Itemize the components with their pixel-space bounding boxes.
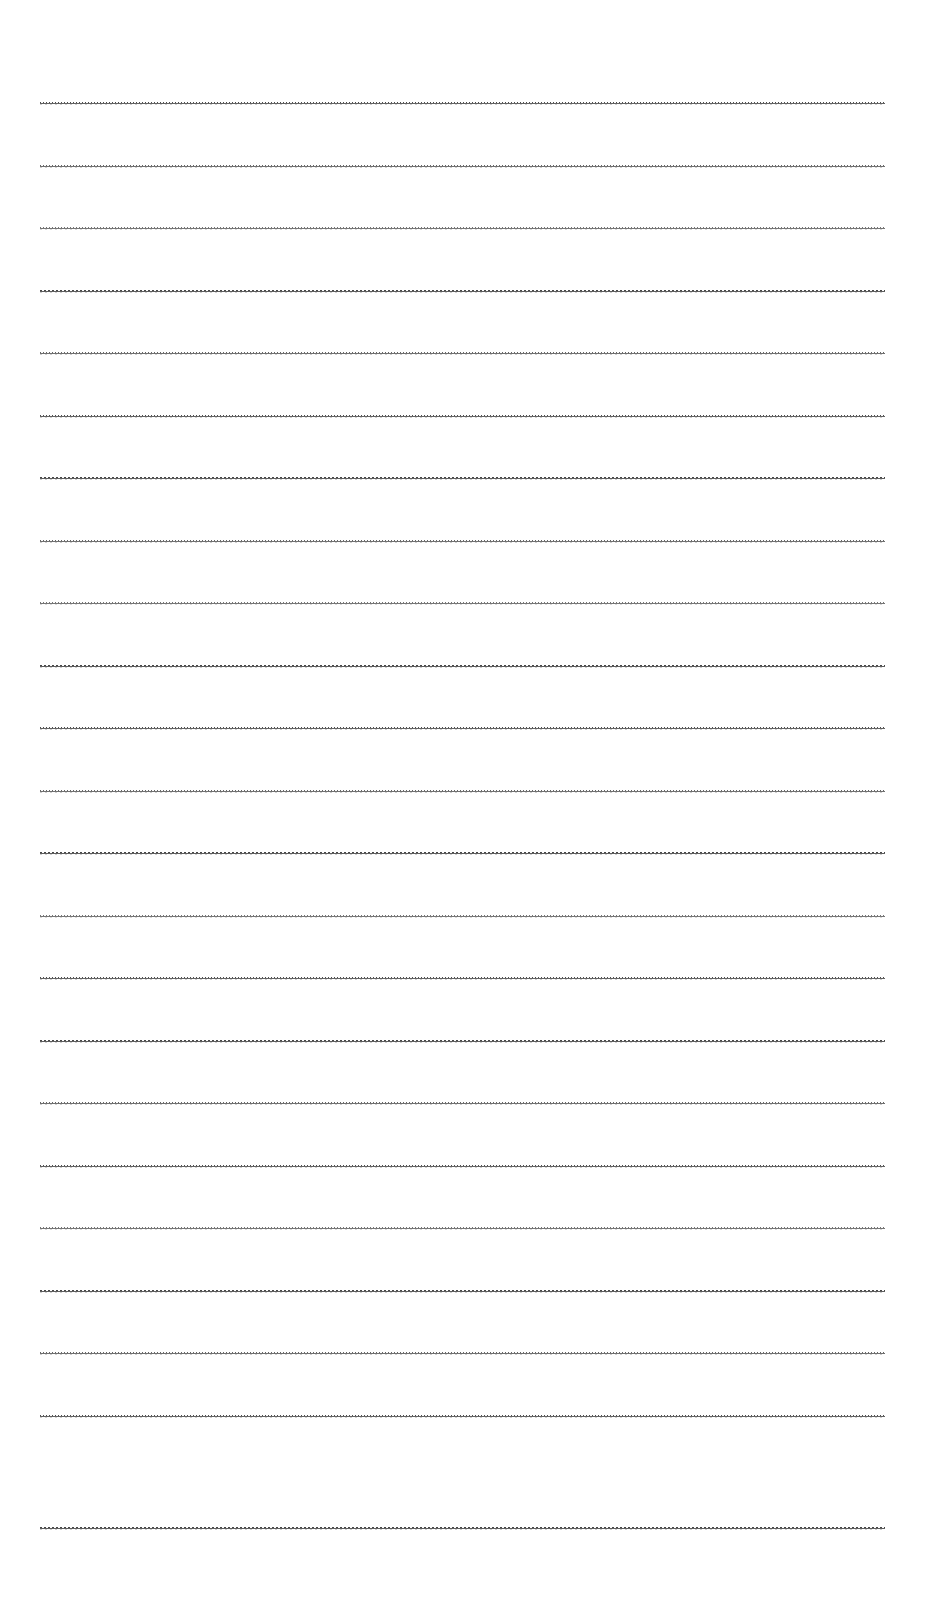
ruled-line-bleed: [40, 1167, 885, 1168]
ruled-line-bleed: [40, 1229, 885, 1230]
ruled-line-bleed: [40, 1417, 885, 1418]
ruled-line-core: [40, 853, 885, 854]
ruled-line-bleed: [40, 854, 885, 855]
ruled-line-bleed: [40, 792, 885, 793]
ruled-line: [40, 602, 885, 605]
ruled-line-bleed: [40, 104, 885, 105]
ruled-line-speckle: [40, 477, 885, 478]
ruled-line-bleed: [40, 604, 885, 605]
ruled-line: [40, 727, 885, 730]
ruled-line-speckle: [40, 1415, 885, 1416]
ruled-line-bleed: [40, 417, 885, 418]
ruled-line: [40, 165, 885, 168]
ruled-line-bleed: [40, 1529, 885, 1530]
ruled-line-speckle: [40, 665, 885, 666]
ruled-line: [40, 290, 885, 293]
ruled-line: [40, 540, 885, 543]
scanned-page: [0, 0, 925, 1597]
ruled-line-core: [40, 1291, 885, 1292]
ruled-line-bleed: [40, 979, 885, 980]
ruled-line-core: [40, 1416, 885, 1417]
ruled-line-bleed: [40, 917, 885, 918]
ruled-line: [40, 852, 885, 855]
ruled-line-speckle: [40, 227, 885, 228]
ruled-line-bleed: [40, 167, 885, 168]
ruled-line-bleed: [40, 1042, 885, 1043]
ruled-line-core: [40, 291, 885, 292]
ruled-line-core: [40, 353, 885, 354]
ruled-line-bleed: [40, 729, 885, 730]
ruled-line: [40, 227, 885, 230]
ruled-line-bleed: [40, 1104, 885, 1105]
ruled-line-core: [40, 791, 885, 792]
ruled-line-bleed: [40, 354, 885, 355]
ruled-line-core: [40, 728, 885, 729]
ruled-line-core: [40, 1041, 885, 1042]
ruled-line-core: [40, 1228, 885, 1229]
ruled-line-speckle: [40, 415, 885, 416]
ruled-line: [40, 1527, 885, 1530]
ruled-line-bleed: [40, 667, 885, 668]
ruled-line-speckle: [40, 540, 885, 541]
ruled-line-core: [40, 416, 885, 417]
ruled-line: [40, 352, 885, 355]
ruled-line-speckle: [40, 852, 885, 853]
ruled-line-speckle: [40, 1040, 885, 1041]
ruled-line: [40, 1165, 885, 1168]
ruled-line-bleed: [40, 292, 885, 293]
ruled-line-core: [40, 916, 885, 917]
ruled-line-speckle: [40, 1165, 885, 1166]
ruled-line: [40, 415, 885, 418]
ruled-line-bleed: [40, 1354, 885, 1355]
ruled-line-core: [40, 1103, 885, 1104]
ruled-line-core: [40, 978, 885, 979]
ruled-line-speckle: [40, 727, 885, 728]
ruled-line-core: [40, 228, 885, 229]
ruled-line-speckle: [40, 1290, 885, 1291]
ruled-line: [40, 1290, 885, 1293]
ruled-line-bleed: [40, 542, 885, 543]
ruled-line-speckle: [40, 165, 885, 166]
ruled-line-core: [40, 1353, 885, 1354]
ruled-line: [40, 477, 885, 480]
ruled-line-speckle: [40, 977, 885, 978]
ruled-line: [40, 1227, 885, 1230]
ruled-line-speckle: [40, 1527, 885, 1528]
ruled-line-bleed: [40, 229, 885, 230]
ruled-line: [40, 102, 885, 105]
ruled-line: [40, 1040, 885, 1043]
ruled-line-speckle: [40, 1102, 885, 1103]
ruled-line-speckle: [40, 915, 885, 916]
ruled-line-core: [40, 478, 885, 479]
ruled-line-speckle: [40, 352, 885, 353]
ruled-line: [40, 1102, 885, 1105]
ruled-line-core: [40, 166, 885, 167]
ruled-line-speckle: [40, 790, 885, 791]
ruled-line-core: [40, 1528, 885, 1529]
ruled-line-core: [40, 1166, 885, 1167]
ruled-line-speckle: [40, 290, 885, 291]
ruled-line-speckle: [40, 102, 885, 103]
ruled-line-bleed: [40, 479, 885, 480]
ruled-line: [40, 977, 885, 980]
ruled-line-core: [40, 541, 885, 542]
ruled-line-bleed: [40, 1292, 885, 1293]
ruled-line-core: [40, 103, 885, 104]
ruled-line-speckle: [40, 602, 885, 603]
ruled-line: [40, 1415, 885, 1418]
ruled-line: [40, 1352, 885, 1355]
ruled-line: [40, 915, 885, 918]
ruled-line-core: [40, 666, 885, 667]
ruled-line-core: [40, 603, 885, 604]
ruled-line-speckle: [40, 1227, 885, 1228]
ruled-line: [40, 790, 885, 793]
ruled-line-speckle: [40, 1352, 885, 1353]
ruled-line: [40, 665, 885, 668]
